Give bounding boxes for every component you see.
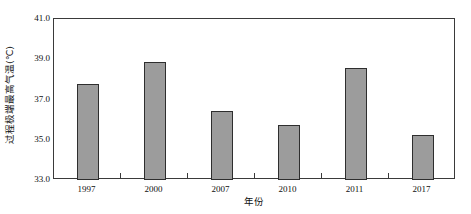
x-axis-tick-label: 2000 [124,184,184,194]
plot-area [53,18,455,179]
x-axis-tick-mark [120,173,121,179]
x-axis-tick-label: 2007 [191,184,251,194]
bar [412,135,434,180]
x-axis-tick-mark [187,173,188,179]
bar [144,62,166,180]
bar [211,111,233,180]
x-axis-tick-label: 2011 [325,184,385,194]
y-axis-tick-label: 37.0 [10,94,50,103]
y-axis-tick-label: 33.0 [10,175,50,184]
y-axis-tick-label: 39.0 [10,54,50,63]
x-axis-tick-label: 2017 [392,184,452,194]
bar [278,125,300,180]
x-axis-tick-mark [321,173,322,179]
bar-chart-figure: 过程极端最高气温(℃) 33.035.037.039.041.0 1997200… [0,0,471,214]
x-axis-tick-label: 2010 [258,184,318,194]
bar [345,68,367,180]
y-axis-tick-label: 41.0 [10,14,50,23]
bar [77,84,99,180]
x-axis-tick-mark [254,173,255,179]
x-axis-title: 年份 [53,196,455,207]
plot-inner [54,19,454,178]
x-axis-tick-label: 1997 [57,184,117,194]
y-axis-tick-label: 35.0 [10,134,50,143]
x-axis-tick-mark [388,173,389,179]
